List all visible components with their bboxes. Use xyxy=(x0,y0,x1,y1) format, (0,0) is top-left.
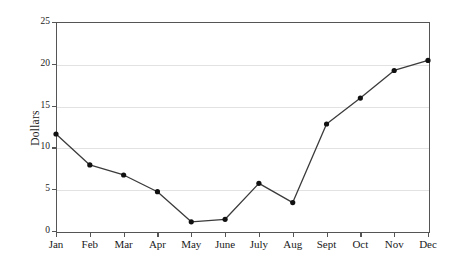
data-point-june xyxy=(222,217,227,222)
series-line-dollars xyxy=(56,60,428,221)
data-point-may xyxy=(189,219,194,224)
data-point-apr xyxy=(155,189,160,194)
data-point-aug xyxy=(290,200,295,205)
data-point-nov xyxy=(392,68,397,73)
data-series-layer xyxy=(0,0,455,261)
data-points-group xyxy=(53,58,430,225)
data-point-oct xyxy=(358,95,363,100)
data-point-july xyxy=(256,181,261,186)
data-point-feb xyxy=(87,162,92,167)
data-point-jan xyxy=(53,131,58,136)
line-chart-figure: Dollars 0510152025 JanFebMarAprMayJuneJu… xyxy=(0,0,455,261)
data-point-sept xyxy=(324,121,329,126)
data-point-dec xyxy=(425,58,430,63)
data-point-mar xyxy=(121,172,126,177)
